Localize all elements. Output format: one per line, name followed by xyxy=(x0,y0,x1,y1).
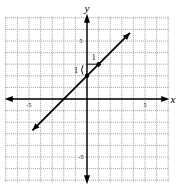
line-y-equals-x-plus-2 xyxy=(32,33,129,130)
y-axis-down-arrow-icon xyxy=(84,175,90,184)
tick-label-y-neg5: -5 xyxy=(79,154,84,160)
plotted-line xyxy=(32,33,129,130)
tick-label-y-5: 5 xyxy=(80,38,83,44)
line-point xyxy=(85,74,89,78)
y-axis-label: y xyxy=(84,2,90,14)
tick-label-x-neg5: -5 xyxy=(27,102,32,108)
labels: yx-555-511 xyxy=(27,2,176,160)
run-label: 1 xyxy=(92,53,96,62)
axes xyxy=(5,14,169,184)
y-axis-up-arrow-icon xyxy=(84,14,90,23)
coordinate-plane: yx-555-511 xyxy=(0,0,176,187)
rise-label: 1 xyxy=(74,66,78,75)
tick-label-x-5: 5 xyxy=(144,102,147,108)
rise-marker xyxy=(82,65,84,75)
x-axis-label: x xyxy=(170,93,176,105)
